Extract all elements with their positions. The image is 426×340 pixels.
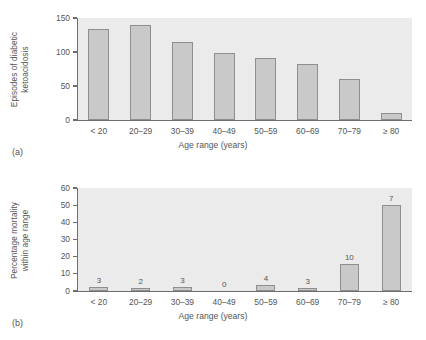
y-axis-line-b: [77, 188, 78, 292]
y-axis-title-a-line1: Episodes of diabetic: [10, 15, 21, 125]
y-tick-label-b-4: 40: [38, 217, 70, 227]
x-tick-label-b-0: < 20: [78, 297, 120, 307]
x-tick-label-b-5: 60–69: [287, 297, 329, 307]
x-tick-label-a-0: < 20: [78, 126, 120, 136]
y-tick-b-0: [73, 290, 77, 291]
y-tick-a-2: [73, 51, 77, 52]
y-tick-b-5: [73, 205, 77, 206]
bar-a-4: [255, 58, 276, 120]
y-axis-line-a: [77, 18, 78, 121]
bar-value-label-b-1: 2: [121, 277, 161, 286]
bar-b-6: [340, 264, 359, 291]
bar-a-6: [339, 79, 360, 120]
y-tick-b-1: [73, 273, 77, 274]
x-tick-label-b-7: ≥ 80: [370, 297, 412, 307]
bar-b-2: [173, 287, 192, 291]
x-tick-label-a-5: 60–69: [287, 126, 329, 136]
bar-a-3: [214, 53, 235, 120]
x-tick-label-b-2: 30–39: [162, 297, 204, 307]
bar-b-5: [298, 288, 317, 291]
bar-value-label-b-6: 10: [329, 253, 369, 262]
bar-b-0: [89, 287, 108, 291]
y-tick-label-b-2: 20: [38, 251, 70, 261]
x-tick-label-b-3: 40–49: [203, 297, 245, 307]
bar-value-label-b-3: 0: [204, 280, 244, 289]
y-axis-title-b: Percentage mortality within age range: [10, 183, 31, 298]
x-tick-label-b-1: 20–29: [120, 297, 162, 307]
y-tick-b-2: [73, 256, 77, 257]
y-tick-label-b-6: 60: [38, 183, 70, 193]
x-axis-title-b: Age range (years): [0, 311, 426, 321]
x-tick-label-a-6: 70–79: [329, 126, 371, 136]
x-tick-label-b-6: 70–79: [329, 297, 371, 307]
x-tick-label-a-4: 50–59: [245, 126, 287, 136]
bar-value-label-b-4: 4: [246, 274, 286, 283]
x-tick-label-a-7: ≥ 80: [370, 126, 412, 136]
y-tick-label-b-5: 50: [38, 200, 70, 210]
y-tick-label-b-0: 0: [38, 286, 70, 296]
y-tick-label-b-1: 10: [38, 268, 70, 278]
y-axis-title-a-line2: ketoacidosis: [20, 15, 31, 125]
bar-a-1: [130, 25, 151, 120]
y-tick-b-3: [73, 239, 77, 240]
x-tick-label-a-3: 40–49: [203, 126, 245, 136]
bar-b-4: [256, 285, 275, 291]
plot-area-a: [78, 18, 412, 120]
y-tick-label-b-3: 30: [38, 234, 70, 244]
y-axis-title-a: Episodes of diabetic ketoacidosis: [10, 15, 31, 125]
x-tick-label-a-1: 20–29: [120, 126, 162, 136]
y-tick-label-a-0: 0: [38, 115, 70, 125]
y-tick-b-4: [73, 222, 77, 223]
x-axis-title-a: Age range (years): [0, 140, 426, 150]
y-tick-a-3: [73, 17, 77, 18]
bar-b-7: [382, 205, 401, 291]
bar-a-7: [381, 113, 402, 120]
y-tick-a-1: [73, 85, 77, 86]
panel-a: Episodes of diabetic ketoacidosis (a) Ag…: [0, 0, 426, 170]
x-axis-line-b: [77, 291, 412, 292]
bar-a-5: [297, 64, 318, 120]
bar-b-1: [131, 288, 150, 291]
y-tick-label-a-2: 100: [38, 47, 70, 57]
bar-value-label-b-5: 3: [288, 277, 328, 286]
y-axis-title-b-line2: within age range: [20, 183, 31, 298]
x-tick-label-b-4: 50–59: [245, 297, 287, 307]
y-tick-label-a-3: 150: [38, 13, 70, 23]
panel-b: Percentage mortality within age range (b…: [0, 170, 426, 340]
bar-a-0: [88, 29, 109, 120]
bar-value-label-b-7: 7: [371, 194, 411, 203]
bar-value-label-b-0: 3: [79, 276, 119, 285]
x-axis-line-a: [77, 120, 412, 121]
y-tick-b-6: [73, 187, 77, 188]
y-tick-a-0: [73, 119, 77, 120]
y-tick-label-a-1: 50: [38, 81, 70, 91]
y-axis-title-b-line1: Percentage mortality: [10, 183, 21, 298]
x-tick-label-a-2: 30–39: [162, 126, 204, 136]
bar-a-2: [172, 42, 193, 120]
bar-value-label-b-2: 3: [162, 276, 202, 285]
